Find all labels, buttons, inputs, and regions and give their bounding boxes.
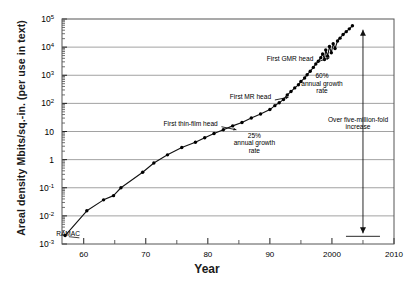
svg-text:10-3: 10-3 [39,239,54,249]
svg-text:2010: 2010 [385,250,403,259]
svg-text:103: 103 [41,70,54,80]
svg-text:105: 105 [41,14,54,24]
ramac-label: RAMAC [56,230,80,237]
svg-text:90: 90 [265,250,274,259]
svg-text:10-1: 10-1 [39,183,54,193]
svg-text:102: 102 [41,98,54,108]
annotations: RAMACFirst thin-film headFirst MR headFi… [56,30,388,238]
growth-rate-25: rate [249,147,261,154]
svg-text:70: 70 [141,250,150,259]
x-axis-ticks: 6070809020002010 [79,238,403,259]
svg-text:10: 10 [45,127,55,137]
growth-rate-60: 60% [315,72,328,79]
svg-text:2000: 2000 [323,250,341,259]
figure: Areal density Mbits/sq.-in. (per use in … [0,0,414,285]
gridlines [62,47,394,216]
svg-text:104: 104 [41,42,54,52]
five-million-fold: Over five-million-fold [328,116,388,123]
first-thin-film-head: First thin-film head [164,120,219,127]
svg-text:60: 60 [79,250,88,259]
y-axis-ticks: 10-310-210-1110102103104105 [39,14,67,249]
first-gmr-head: First GMR head [267,55,314,62]
chart-canvas: 10-310-210-1110102103104105 607080902000… [0,0,414,285]
growth-rate-60: rate [316,87,328,94]
first-mr-head: First MR head [230,93,272,100]
five-million-fold: increase [346,123,371,130]
svg-text:10-2: 10-2 [39,211,54,221]
svg-text:1: 1 [49,155,54,165]
growth-rate-25: 25% [248,132,261,139]
svg-text:80: 80 [203,250,212,259]
